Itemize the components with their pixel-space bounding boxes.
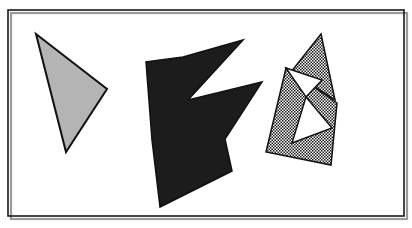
figure-container	[0, 0, 412, 228]
figure-page	[0, 0, 412, 228]
shapes-canvas	[0, 0, 412, 228]
